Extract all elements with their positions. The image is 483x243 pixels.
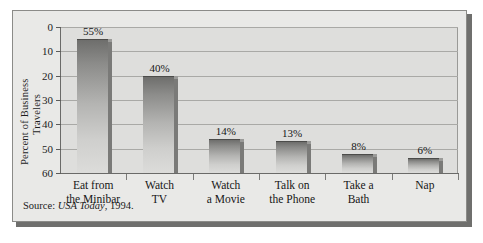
bar-front-face: [408, 158, 439, 173]
bar[interactable]: [209, 139, 240, 173]
y-axis-tick-mark: [56, 173, 61, 174]
gridline: [60, 124, 458, 125]
x-axis-tick-mark: [458, 174, 459, 180]
y-axis-tick-mark: [56, 76, 61, 77]
bar-value-label: 6%: [395, 144, 455, 156]
bar-front-face: [143, 76, 174, 173]
gridline: [60, 100, 458, 101]
bar-side-face: [240, 139, 244, 173]
y-axis-tick-mark: [56, 51, 61, 52]
y-axis-tick-mark: [56, 27, 61, 28]
y-axis-title-line-2: Travelers: [31, 94, 42, 135]
source-publication: USA Today: [58, 200, 105, 211]
y-axis-tick-mark: [56, 100, 61, 101]
bar-top-face: [240, 139, 244, 142]
bar-front-face: [342, 154, 373, 173]
source-prefix: Source:: [23, 200, 55, 211]
bar-side-face: [174, 76, 178, 173]
bar-top-face: [108, 39, 112, 42]
bar[interactable]: [143, 76, 174, 173]
bar-side-face: [108, 39, 112, 173]
bar-top-face: [439, 158, 443, 161]
gridline: [60, 76, 458, 77]
bar-chart-figure: 6050403020100 Percent of Business Travel…: [12, 10, 467, 222]
figure-shadow-bottom: [16, 222, 472, 227]
y-axis-tick-mark: [56, 124, 61, 125]
bar-value-label: 14%: [196, 125, 256, 137]
source-note: Source: USA Today, 1994.: [23, 200, 134, 211]
figure-shadow-right: [467, 14, 472, 226]
x-axis-category-label: Nap: [383, 179, 467, 193]
bar-top-face: [307, 141, 311, 144]
bar-value-label: 55%: [63, 25, 123, 37]
bar-value-label: 40%: [130, 62, 190, 74]
gridline: [60, 51, 458, 52]
bar[interactable]: [342, 154, 373, 173]
y-axis-title-line-1: Percent of Business: [19, 78, 30, 165]
y-axis-title: Percent of Business Travelers: [17, 27, 43, 173]
bar-top-face: [174, 76, 178, 79]
x-axis-category-line: Nap: [383, 179, 467, 193]
bar-top-face: [373, 154, 377, 157]
x-axis-category-line: Bath: [317, 193, 401, 207]
bar-value-label: 13%: [262, 127, 322, 139]
bar-front-face: [209, 139, 240, 173]
bar-front-face: [276, 141, 307, 173]
bar-front-face: [77, 39, 108, 173]
bar-value-label: 8%: [329, 140, 389, 152]
bar[interactable]: [77, 39, 108, 173]
bar[interactable]: [276, 141, 307, 173]
y-axis-tick-mark: [56, 149, 61, 150]
bar-side-face: [307, 141, 311, 173]
bar[interactable]: [408, 158, 439, 173]
source-suffix: , 1994.: [105, 200, 134, 211]
